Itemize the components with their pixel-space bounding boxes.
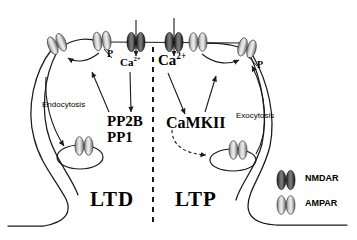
legend-glyphs bbox=[277, 170, 295, 214]
figure-canvas: P P Ca2+ Ca2+ Endocytosis Exocytosis PP2… bbox=[0, 0, 357, 240]
ampar-vesicle-right bbox=[229, 141, 247, 160]
calcium-label-ltd-text: Ca bbox=[120, 56, 133, 68]
arrow-pp-to-ampar bbox=[92, 72, 109, 112]
calcium-label-ltp-text: Ca bbox=[158, 52, 176, 68]
phosphate-label-left: P bbox=[107, 49, 113, 59]
phosphatase-label-pp2b: PP2B bbox=[107, 114, 143, 129]
arrow-camkii-to-p bbox=[205, 76, 216, 112]
region-label-ltd: LTD bbox=[90, 189, 134, 210]
ampar-vesicle-left bbox=[75, 137, 93, 156]
calcium-label-ltd-charge: 2+ bbox=[133, 55, 140, 62]
legend-label-nmdar: NMDAR bbox=[305, 174, 339, 183]
spine-wall-right-inner bbox=[236, 53, 264, 200]
arrow-ca-to-pp2b bbox=[130, 72, 131, 112]
arrow-ampar-lateral-left bbox=[68, 53, 99, 61]
arrow-camkii-to-vesicle bbox=[172, 130, 206, 155]
calcium-label-ltd: Ca2+ bbox=[120, 56, 141, 68]
ampar-membrane-right-inner bbox=[189, 33, 207, 52]
arrow-ampar-lateral-right bbox=[202, 54, 239, 63]
legend-ampar-icon bbox=[277, 196, 295, 215]
exocytosis-label: Exocytosis bbox=[236, 112, 274, 120]
kinase-label-camkii: CaMKII bbox=[166, 115, 226, 131]
receptor-glyphs bbox=[45, 31, 258, 159]
ltp-arrows bbox=[168, 54, 265, 155]
region-label-ltp: LTP bbox=[175, 189, 217, 210]
calcium-label-ltp-charge: 2+ bbox=[176, 51, 186, 61]
endocytosis-label: Endocytosis bbox=[42, 101, 85, 109]
phosphatase-label-pp1: PP1 bbox=[107, 130, 133, 145]
ampar-membrane-right-far bbox=[236, 37, 258, 59]
calcium-label-ltp: Ca2+ bbox=[158, 52, 186, 68]
legend-label-ampar: AMPAR bbox=[305, 199, 337, 208]
membrane-right-shoulder bbox=[204, 43, 243, 49]
spine-wall-left-inner bbox=[44, 52, 78, 195]
legend-nmdar-icon bbox=[277, 170, 295, 189]
phosphate-label-right: P bbox=[257, 60, 263, 70]
arrow-ca-to-camkii bbox=[168, 73, 185, 114]
membrane-left-shoulder bbox=[62, 39, 97, 47]
